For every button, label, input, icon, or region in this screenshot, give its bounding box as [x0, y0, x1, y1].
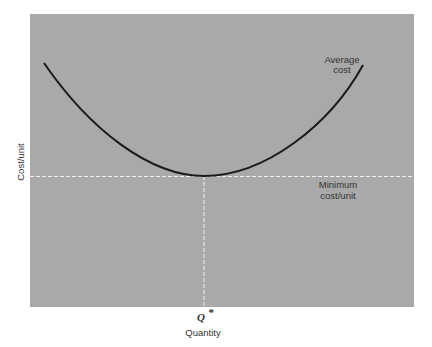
minimum-cost-label-line1: Minimum	[319, 179, 358, 190]
minimum-cost-label-line2: cost/unit	[320, 190, 356, 201]
chart: Average cost Minimum cost/unit Cost/unit…	[0, 0, 432, 347]
x-axis-label: Quantity	[185, 327, 221, 338]
q-star-label: Q	[197, 311, 205, 323]
q-star-superscript: *	[208, 306, 214, 318]
average-cost-label-line2: cost	[333, 64, 351, 75]
y-axis-label: Cost/unit	[15, 143, 26, 181]
